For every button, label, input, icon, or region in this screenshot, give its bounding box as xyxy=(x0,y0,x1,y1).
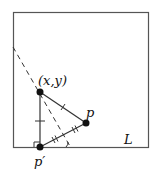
label-point-p-prime: p′ xyxy=(34,154,45,169)
frame-box xyxy=(14,13,149,148)
diagram-canvas: (x,y) p p′ L xyxy=(0,0,158,177)
label-point-xy: (x,y) xyxy=(38,73,67,88)
angle-arc xyxy=(66,142,68,147)
point-p-prime xyxy=(37,144,44,151)
point-p xyxy=(83,120,90,127)
label-line-l: L xyxy=(123,132,133,147)
label-point-p: p xyxy=(86,105,95,120)
point-xy xyxy=(37,89,44,96)
dashed-bisector-line xyxy=(13,47,71,148)
segment-p-prime-to-p xyxy=(40,123,86,147)
